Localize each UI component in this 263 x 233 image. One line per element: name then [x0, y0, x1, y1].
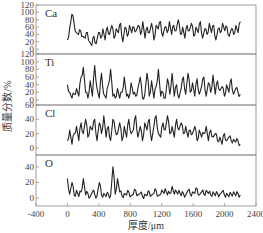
panel-label-ti: Ti: [45, 56, 54, 68]
panel-label-cl: Cl: [45, 107, 55, 119]
series-line-ti: [67, 66, 240, 100]
x-tick-label: 400: [92, 209, 106, 219]
x-tick-label: 1600: [184, 209, 203, 219]
x-tick-label: 2400: [247, 209, 263, 219]
y-tick-label: 40: [25, 162, 35, 172]
panel-label-o: O: [45, 157, 53, 169]
panel-ti: 020406080100120Ti: [21, 49, 257, 105]
panel-o: 02040O: [25, 155, 256, 206]
y-tick-label: 0: [30, 143, 35, 153]
series-line-cl: [67, 116, 240, 146]
x-axis: -40004008001200160020002400: [28, 203, 263, 219]
y-tick-label: 20: [25, 129, 35, 139]
y-tick-label: 120: [21, 0, 35, 10]
panel-label-ca: Ca: [45, 7, 57, 19]
x-axis-title: 厚度/μm: [128, 219, 164, 231]
panels: 020406080100120Ca020406080100120Ti020406…: [21, 0, 257, 206]
series-line-o: [67, 167, 240, 199]
panel-ca: 020406080100120Ca: [21, 0, 257, 54]
series-line-ca: [67, 14, 240, 45]
stacked-line-chart: 020406080100120Ca020406080100120Ti020406…: [0, 0, 263, 233]
panel-frame: [36, 105, 256, 155]
y-tick-label: 120: [21, 49, 35, 59]
y-axis-title: 质量分数/%: [1, 80, 13, 131]
y-tick-label: 0: [30, 193, 35, 203]
x-tick-label: 800: [124, 209, 138, 219]
y-tick-label: 40: [25, 114, 35, 124]
x-tick-label: 1200: [153, 209, 172, 219]
x-tick-label: 2000: [216, 209, 235, 219]
x-tick-label: -400: [28, 209, 45, 219]
x-tick-label: 0: [65, 209, 70, 219]
y-tick-label: 20: [25, 177, 35, 187]
y-tick-label: 60: [25, 100, 35, 110]
panel-frame: [36, 155, 256, 206]
panel-cl: 0204060Cl: [25, 100, 256, 155]
